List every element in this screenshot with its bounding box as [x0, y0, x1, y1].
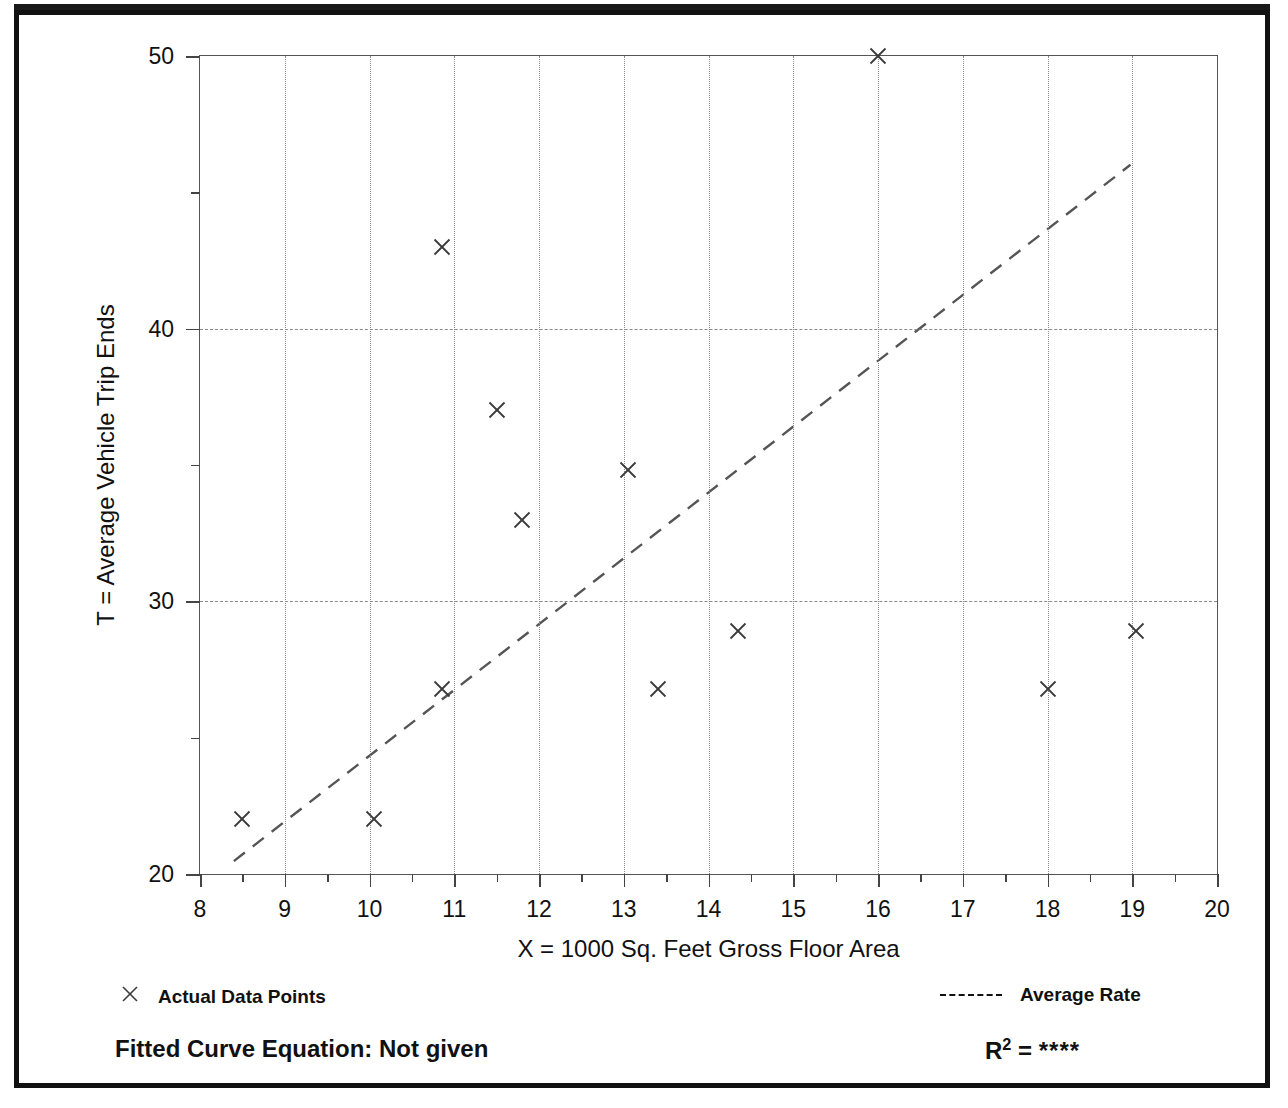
x-axis-tick	[963, 874, 965, 887]
y-axis-tick-label: 40	[148, 315, 174, 342]
y-axis-minor-tick	[191, 738, 200, 739]
legend-label-average-rate: Average Rate	[1020, 984, 1141, 1006]
legend-item-actual-data-points: Actual Data Points	[120, 984, 326, 1009]
vertical-gridline	[539, 56, 540, 874]
x-axis-tick-label: 16	[865, 896, 891, 923]
r-squared-stars: ****	[1039, 1037, 1080, 1064]
dashed-line-icon	[940, 994, 1002, 996]
legend-item-average-rate: Average Rate	[940, 984, 1141, 1006]
vertical-gridline	[454, 56, 455, 874]
legend-label-actual-data-points: Actual Data Points	[158, 986, 326, 1008]
r-squared-equals: =	[1011, 1037, 1038, 1064]
x-axis-tick-label: 11	[442, 896, 466, 923]
x-axis-minor-tick	[412, 874, 413, 882]
vertical-gridline	[878, 56, 879, 874]
x-axis-tick	[1217, 874, 1219, 887]
plot-area: 89101112131415161718192020304050	[199, 55, 1218, 875]
x-axis-tick-label: 17	[950, 896, 976, 923]
x-axis-tick-label: 20	[1204, 896, 1230, 923]
x-axis-minor-tick	[1005, 874, 1006, 882]
scatter-chart: 89101112131415161718192020304050 X = 100…	[0, 0, 1288, 1108]
vertical-gridline	[285, 56, 286, 874]
x-axis-tick-label: 13	[611, 896, 637, 923]
x-axis-tick	[709, 874, 711, 887]
y-axis-tick	[186, 329, 200, 331]
x-axis-minor-tick	[497, 874, 498, 882]
y-axis-tick	[186, 56, 200, 58]
x-axis-minor-tick	[242, 874, 243, 882]
x-axis-minor-tick	[920, 874, 921, 882]
chart-footer: Fitted Curve Equation: Not given R2 = **…	[60, 1035, 1220, 1075]
x-axis-tick	[539, 874, 541, 887]
x-axis-tick-label: 10	[357, 896, 383, 923]
vertical-gridline	[624, 56, 625, 874]
horizontal-gridline	[200, 601, 1217, 602]
horizontal-gridline	[200, 329, 1217, 330]
y-axis-tick-label: 20	[148, 861, 174, 888]
y-axis-tick-label: 30	[148, 588, 174, 615]
x-axis-tick-label: 12	[526, 896, 552, 923]
fitted-curve-equation: Fitted Curve Equation: Not given	[115, 1035, 488, 1063]
vertical-gridline	[709, 56, 710, 874]
page-canvas: 89101112131415161718192020304050 X = 100…	[0, 0, 1288, 1108]
y-axis-tick-label: 50	[148, 43, 174, 70]
x-axis-tick-label: 8	[194, 896, 207, 923]
x-axis-tick-label: 9	[278, 896, 291, 923]
average-rate-line	[234, 165, 1131, 861]
x-axis-tick-label: 15	[780, 896, 806, 923]
x-axis-tick	[454, 874, 456, 887]
x-axis-minor-tick	[1090, 874, 1091, 882]
r-squared-prefix: R	[985, 1037, 1002, 1064]
vertical-gridline	[1048, 56, 1049, 874]
x-axis-minor-tick	[751, 874, 752, 882]
x-axis-tick	[624, 874, 626, 887]
x-axis-tick	[878, 874, 880, 887]
x-axis-minor-tick	[666, 874, 667, 882]
x-axis-tick	[1132, 874, 1134, 887]
x-axis-minor-tick	[581, 874, 582, 882]
x-axis-tick	[200, 874, 202, 887]
y-axis-title: T = Average Vehicle Trip Ends	[92, 55, 132, 875]
x-axis-tick	[1048, 874, 1050, 887]
x-axis-minor-tick	[1175, 874, 1176, 882]
vertical-gridline	[1132, 56, 1133, 874]
x-axis-minor-tick	[836, 874, 837, 882]
y-axis-minor-tick	[191, 465, 200, 466]
y-axis-minor-tick	[191, 192, 200, 193]
x-axis-tick-label: 14	[696, 896, 722, 923]
x-axis-title: X = 1000 Sq. Feet Gross Floor Area	[199, 935, 1218, 963]
y-axis-tick	[186, 601, 200, 603]
x-axis-tick	[793, 874, 795, 887]
x-marker-icon	[120, 984, 140, 1009]
vertical-gridline	[370, 56, 371, 874]
x-axis-tick-label: 18	[1035, 896, 1061, 923]
r-squared-value: R2 = ****	[985, 1035, 1080, 1065]
vertical-gridline	[793, 56, 794, 874]
chart-legend: Actual Data Points Average Rate	[60, 980, 1220, 1020]
x-axis-minor-tick	[327, 874, 328, 882]
x-axis-tick	[370, 874, 372, 887]
x-axis-tick	[285, 874, 287, 887]
x-axis-tick-label: 19	[1119, 896, 1145, 923]
vertical-gridline	[963, 56, 964, 874]
y-axis-tick	[186, 874, 200, 876]
